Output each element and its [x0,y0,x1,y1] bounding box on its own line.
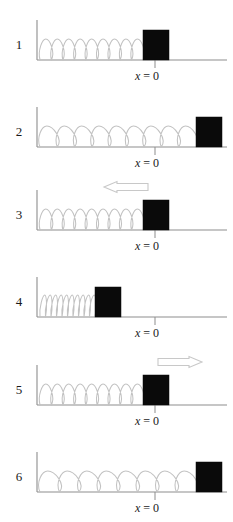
panel-3: 3x = 0 [0,174,233,261]
panel-2: 2x = 0 [0,91,233,178]
equilibrium-label-value: 0 [153,326,159,340]
spring-coil [39,209,144,230]
mass-block [196,117,222,147]
panel-scene [0,261,233,348]
panel-5: 5x = 0 [0,349,233,436]
spring-coil [39,126,198,147]
equilibrium-label-equals: = [140,501,153,515]
panel-scene [0,436,233,522]
equilibrium-label: x = 0 [135,502,159,514]
velocity-arrow-left [104,182,148,193]
panel-scene [0,174,233,261]
spring-coil [40,295,96,317]
equilibrium-label-equals: = [140,156,153,170]
equilibrium-label-equals: = [140,239,153,253]
panel-6: 6x = 0 [0,436,233,522]
spring-oscillator-figure: 1x = 02x = 03x = 04x = 05x = 06x = 0 [0,0,233,522]
equilibrium-label: x = 0 [135,157,159,169]
mass-block [196,462,222,492]
equilibrium-label: x = 0 [135,70,159,82]
equilibrium-label-value: 0 [153,156,159,170]
panel-scene [0,349,233,436]
equilibrium-label: x = 0 [135,327,159,339]
equilibrium-label-value: 0 [153,239,159,253]
mass-block [143,30,169,60]
panel-scene [0,4,233,91]
panel-1: 1x = 0 [0,4,233,91]
mass-block [143,200,169,230]
velocity-arrow-right [158,357,202,368]
mass-block [143,375,169,405]
equilibrium-label: x = 0 [135,240,159,252]
equilibrium-label-value: 0 [153,69,159,83]
spring-coil [39,384,144,405]
spring-coil [39,471,198,492]
panel-4: 4x = 0 [0,261,233,348]
equilibrium-label: x = 0 [135,415,159,427]
panel-scene [0,91,233,178]
equilibrium-label-equals: = [140,326,153,340]
equilibrium-label-value: 0 [153,414,159,428]
equilibrium-label-value: 0 [153,501,159,515]
spring-coil [39,39,144,60]
equilibrium-label-equals: = [140,414,153,428]
equilibrium-label-equals: = [140,69,153,83]
mass-block [95,287,121,317]
